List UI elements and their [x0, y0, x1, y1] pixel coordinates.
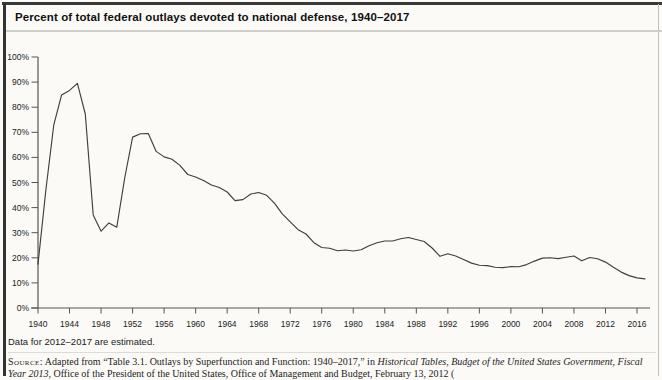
y-tick-label: 20% [12, 253, 29, 263]
y-axis: 0%10%20%30%40%50%60%70%80%90%100% [7, 52, 38, 313]
source-note: Source: Adapted from “Table 3.1. Outlays… [8, 352, 656, 380]
x-axis: 1940194419481952195619601964196819721976… [29, 308, 650, 329]
x-tick-label: 1996 [470, 319, 489, 329]
source-label: Source: [8, 356, 43, 367]
figure-top-border [2, 2, 662, 5]
x-tick-label: 1952 [123, 319, 142, 329]
x-tick-label: 1944 [60, 319, 79, 329]
x-tick-label: 1992 [438, 319, 457, 329]
x-tick-label: 1948 [92, 319, 111, 329]
source-text-1: Adapted from “Table 3.1. Outlays by Supe… [45, 356, 378, 367]
x-tick-label: 1964 [218, 319, 237, 329]
x-tick-label: 1956 [155, 319, 174, 329]
y-tick-label: 80% [12, 102, 29, 112]
y-tick-label: 0% [17, 303, 30, 313]
data-series [38, 83, 645, 279]
source-text-2: , Office of the President of the United … [48, 368, 454, 379]
y-tick-label: 30% [12, 228, 29, 238]
x-tick-label: 1968 [249, 319, 268, 329]
x-tick-label: 2016 [628, 319, 647, 329]
y-tick-label: 50% [12, 178, 29, 188]
x-tick-label: 1960 [186, 319, 205, 329]
x-tick-label: 1984 [375, 319, 394, 329]
x-tick-label: 2008 [564, 319, 583, 329]
y-tick-label: 70% [12, 127, 29, 137]
x-tick-label: 1940 [29, 319, 48, 329]
figure-title: Percent of total federal outlays devoted… [15, 8, 642, 26]
footnote: Data for 2012–2017 are estimated. [8, 336, 652, 347]
y-tick-label: 40% [12, 203, 29, 213]
x-tick-label: 1980 [344, 319, 363, 329]
x-tick-label: 1988 [407, 319, 426, 329]
x-tick-label: 1972 [281, 319, 300, 329]
defense-outlays-line [38, 83, 645, 279]
title-divider-rule [6, 30, 662, 32]
y-tick-label: 10% [12, 278, 29, 288]
defense-line-chart: 0%10%20%30%40%50%60%70%80%90%100% 194019… [0, 40, 662, 332]
y-tick-label: 60% [12, 152, 29, 162]
x-tick-label: 1976 [312, 319, 331, 329]
x-tick-label: 2000 [501, 319, 520, 329]
x-tick-label: 2004 [533, 319, 552, 329]
x-tick-label: 2012 [596, 319, 615, 329]
y-tick-label: 100% [7, 52, 29, 62]
y-tick-label: 90% [12, 77, 29, 87]
